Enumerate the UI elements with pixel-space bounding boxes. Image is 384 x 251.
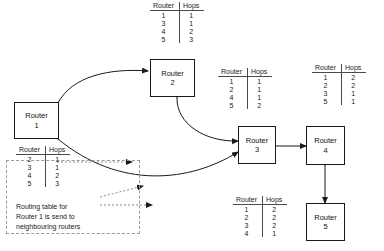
table-row: 2 1 — [16, 155, 70, 164]
table-row: 2 2 — [312, 81, 366, 89]
table-row: 2 2 — [233, 213, 287, 221]
table-row: 1 1 — [218, 77, 272, 86]
routing-table-caption: Routing table for Router 1 is send to ne… — [16, 202, 80, 232]
table-header-router: Router — [233, 196, 263, 205]
diagram-canvas: Router Hops 1 1 3 1 4 2 5 — [0, 0, 384, 251]
caption-line-3: neighbouring routers — [16, 222, 80, 232]
table-row: 3 1 — [16, 163, 70, 171]
table-row: 3 1 — [150, 19, 204, 27]
routing-table-router-5: Router Hops 1 2 2 2 3 2 4 — [233, 196, 287, 237]
router-node-5-number: 5 — [323, 222, 327, 231]
table-row: 5 3 — [16, 179, 70, 187]
table-row: 2 1 — [218, 85, 272, 93]
table-header-hops: Hops — [248, 68, 273, 77]
router-node-4[interactable]: Router 4 — [306, 126, 345, 165]
table-row: 3 2 — [233, 221, 287, 229]
router-node-4-number: 4 — [323, 146, 327, 155]
router-node-5-label: Router — [314, 213, 337, 222]
router-node-5[interactable]: Router 5 — [306, 203, 345, 241]
router-node-2[interactable]: Router 2 — [150, 59, 195, 97]
routing-table-router-3: Router Hops 1 1 2 1 4 1 5 — [218, 68, 272, 109]
table-row: 5 2 — [218, 101, 272, 109]
router-node-1[interactable]: Router 1 — [14, 102, 59, 139]
router-node-3-label: Router — [246, 136, 269, 145]
caption-line-2: Router 1 is send to — [16, 212, 80, 222]
table-row: 4 2 — [150, 27, 204, 35]
table-header-hops: Hops — [342, 64, 367, 73]
routing-table-router-1: Router Hops 2 1 3 1 4 2 5 — [16, 146, 70, 187]
table-header-router: Router — [312, 64, 342, 73]
router-node-3-number: 3 — [255, 145, 259, 154]
table-header-router: Router — [218, 68, 248, 77]
routing-table-router-2: Router Hops 1 1 3 1 4 2 5 — [150, 2, 204, 43]
table-row: 5 3 — [150, 35, 204, 43]
table-header-router: Router — [150, 2, 180, 11]
table-row: 5 1 — [312, 97, 366, 105]
table-row: 3 1 — [312, 89, 366, 97]
table-row: 4 1 — [218, 93, 272, 101]
router-node-1-label: Router — [25, 111, 48, 120]
caption-line-1: Routing table for — [16, 202, 80, 212]
routing-table-router-4: Router Hops 1 2 2 2 3 1 5 — [312, 64, 366, 105]
table-header-router: Router — [16, 146, 46, 155]
table-row: 1 1 — [150, 11, 204, 20]
table-header-hops: Hops — [180, 2, 205, 11]
table-header-hops: Hops — [46, 146, 71, 155]
router-node-2-label: Router — [161, 69, 184, 78]
table-row: 1 2 — [312, 73, 366, 82]
table-header-hops: Hops — [263, 196, 288, 205]
router-node-4-label: Router — [314, 136, 337, 145]
router-node-3[interactable]: Router 3 — [238, 126, 276, 164]
link-router1-router2 — [58, 70, 148, 103]
table-row: 4 1 — [233, 229, 287, 237]
table-row: 1 2 — [233, 205, 287, 214]
router-node-1-number: 1 — [34, 121, 38, 130]
table-row: 4 2 — [16, 171, 70, 179]
router-node-2-number: 2 — [170, 78, 174, 87]
